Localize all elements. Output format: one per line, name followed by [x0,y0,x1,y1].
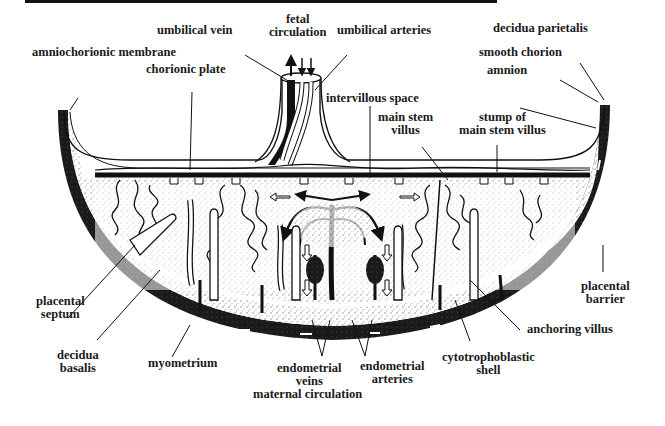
label-fetal-circulation: fetal circulation [269,13,326,39]
label-placental-barrier: placental barrier [581,280,630,306]
label-line: barrier [581,293,630,306]
label-intervillous-space: intervillous space [326,92,419,105]
label-placental-septum: placental septum [36,295,85,321]
label-stump-of-main-stem-villus: stump of main stem villus [459,111,546,137]
label-umbilical-arteries: umbilical arteries [337,24,431,37]
label-endometrial-arteries: endometrial arteries [360,360,425,386]
label-line: main stem villus [459,124,546,137]
label-anchoring-villus: anchoring villus [527,323,613,336]
label-umbilical-vein: umbilical vein [157,24,232,37]
label-chorionic-plate: chorionic plate [146,63,226,76]
label-line: arteries [360,373,425,386]
label-smooth-chorion: smooth chorion [479,46,562,59]
label-line: basalis [57,362,99,375]
label-amnion: amnion [487,64,527,77]
label-endometrial-veins: endometrial veins [277,362,342,388]
label-line: septum [36,308,85,321]
label-cytotrophoblastic-shell: cytotrophoblastic shell [442,351,535,377]
label-decidua-basalis: decidua basalis [57,349,99,375]
label-amniochorionic-membrane: amniochorionic membrane [32,46,176,59]
top-rule [25,0,497,3]
label-line: shell [442,364,535,377]
label-main-stem-villus: main stem villus [378,111,433,137]
label-line: villus [378,124,433,137]
label-line: circulation [269,26,326,39]
label-decidua-parietalis: decidua parietalis [493,22,588,35]
label-maternal-circulation: maternal circulation [253,388,362,401]
label-myometrium: myometrium [148,357,217,370]
umbilical-cord [255,58,350,165]
